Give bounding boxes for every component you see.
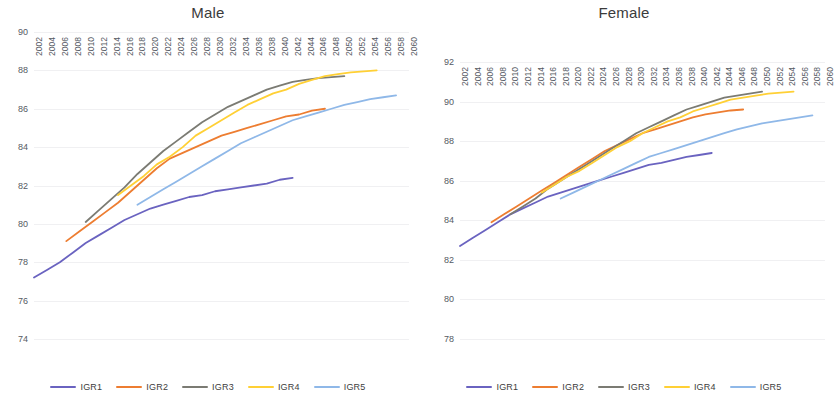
panel-title-male: Male — [0, 4, 416, 21]
plot-area-male: 7476788082848688902002200420062008201020… — [34, 32, 409, 339]
legend-label: IGR3 — [628, 382, 650, 392]
series-line-igr4 — [118, 70, 377, 195]
legend-male: IGR1IGR2IGR3IGR4IGR5 — [0, 382, 416, 392]
y-axis-tick-label: 84 — [444, 215, 454, 225]
legend-label: IGR4 — [278, 382, 300, 392]
legend-item-igr3[interactable]: IGR3 — [598, 382, 650, 392]
y-axis-tick-label: 80 — [444, 294, 454, 304]
y-axis-tick-label: 90 — [18, 27, 28, 37]
series-line-igr2 — [66, 109, 325, 241]
panel-male: Male 74767880828486889020022004200620082… — [0, 0, 416, 394]
y-axis-tick-label: 88 — [18, 65, 28, 75]
legend-female: IGR1IGR2IGR3IGR4IGR5 — [416, 382, 832, 392]
y-axis-tick-label: 74 — [18, 334, 28, 344]
legend-item-igr1[interactable]: IGR1 — [50, 382, 102, 392]
y-axis-tick-label: 82 — [18, 181, 28, 191]
legend-label: IGR2 — [562, 382, 584, 392]
y-axis-tick-label: 92 — [444, 57, 454, 67]
y-axis-tick-label: 90 — [444, 97, 454, 107]
y-axis-tick-label: 86 — [444, 176, 454, 186]
legend-label: IGR4 — [694, 382, 716, 392]
y-axis-tick-label: 86 — [18, 104, 28, 114]
series-line-igr1 — [34, 178, 293, 278]
legend-item-igr2[interactable]: IGR2 — [116, 382, 168, 392]
legend-label: IGR3 — [212, 382, 234, 392]
legend-swatch-icon — [664, 386, 690, 389]
legend-swatch-icon — [598, 386, 624, 389]
legend-item-igr5[interactable]: IGR5 — [730, 382, 782, 392]
y-axis-tick-label: 88 — [444, 136, 454, 146]
legend-label: IGR5 — [344, 382, 366, 392]
legend-item-igr4[interactable]: IGR4 — [664, 382, 716, 392]
series-line-igr4 — [542, 92, 794, 193]
legend-swatch-icon — [248, 386, 274, 389]
gridline — [460, 339, 825, 340]
y-axis-tick-label: 76 — [18, 296, 28, 306]
y-axis-tick-label: 82 — [444, 255, 454, 265]
series-layer — [460, 62, 825, 339]
series-layer — [34, 32, 409, 339]
legend-item-igr3[interactable]: IGR3 — [182, 382, 234, 392]
legend-swatch-icon — [466, 386, 492, 389]
x-axis-tick-label: 2060 — [825, 67, 835, 86]
panel-title-female: Female — [416, 4, 832, 21]
legend-swatch-icon — [182, 386, 208, 389]
legend-swatch-icon — [532, 386, 558, 389]
y-axis-tick-label: 78 — [18, 257, 28, 267]
legend-label: IGR5 — [760, 382, 782, 392]
legend-swatch-icon — [116, 386, 142, 389]
panel-female: Female 788082848688909220022004200620082… — [416, 0, 832, 394]
legend-swatch-icon — [50, 386, 76, 389]
series-line-igr3 — [86, 76, 345, 222]
legend-swatch-icon — [730, 386, 756, 389]
legend-label: IGR1 — [496, 382, 518, 392]
plot-area-female: 7880828486889092200220042006200820102012… — [460, 62, 825, 339]
series-line-igr5 — [137, 95, 396, 204]
legend-item-igr2[interactable]: IGR2 — [532, 382, 584, 392]
legend-item-igr4[interactable]: IGR4 — [248, 382, 300, 392]
legend-label: IGR1 — [80, 382, 102, 392]
legend-item-igr1[interactable]: IGR1 — [466, 382, 518, 392]
legend-item-igr5[interactable]: IGR5 — [314, 382, 366, 392]
gridline — [34, 339, 409, 340]
y-axis-tick-label: 80 — [18, 219, 28, 229]
legend-swatch-icon — [314, 386, 340, 389]
y-axis-tick-label: 78 — [444, 334, 454, 344]
y-axis-tick-label: 84 — [18, 142, 28, 152]
legend-label: IGR2 — [146, 382, 168, 392]
